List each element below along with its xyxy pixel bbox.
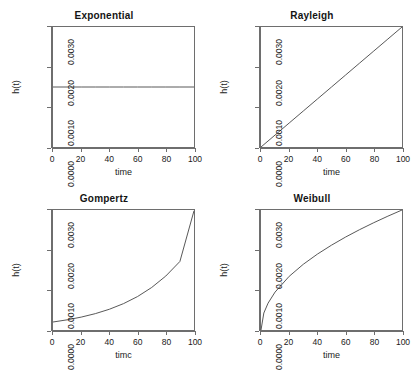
y-tick-mark (255, 250, 259, 251)
y-tick-label: 0.0020 (66, 250, 76, 276)
y-tick-label: 0.0020 (66, 67, 76, 93)
y-tick-label: 0.0030 (274, 209, 284, 235)
x-tick-label: 60 (341, 337, 350, 347)
y-tick-label: 0.0030 (66, 26, 76, 52)
y-axis-title: h(t) (218, 209, 230, 331)
chart-panel-weibull: Weibull020406080100time0.00000.00100.002… (208, 183, 416, 366)
panel-title: Rayleigh (208, 10, 416, 21)
y-tick-label-text: 0.0020 (66, 263, 76, 289)
y-tick-label-text: 0.0030 (274, 222, 284, 248)
y-axis-line (259, 26, 260, 148)
x-tick-mark (317, 331, 318, 335)
y-tick-label: 0.0030 (274, 26, 284, 52)
y-axis-title-text: h(t) (219, 80, 229, 94)
x-tick-mark (289, 331, 290, 335)
x-tick-label: 100 (188, 154, 202, 164)
y-tick-label-text: 0.0020 (274, 80, 284, 106)
x-tick-mark (260, 148, 261, 152)
y-tick-label: 0.0000 (274, 331, 284, 357)
y-tick-mark (255, 290, 259, 291)
x-tick-label: 60 (133, 337, 142, 347)
x-tick-label: 60 (341, 154, 350, 164)
x-tick-mark (346, 331, 347, 335)
y-tick-label-text: 0.0030 (66, 39, 76, 65)
x-tick-label: 80 (370, 154, 379, 164)
x-tick-label: 80 (162, 154, 171, 164)
y-tick-mark (47, 107, 51, 108)
y-tick-label: 0.0000 (66, 331, 76, 357)
y-tick-mark (47, 250, 51, 251)
y-axis-title: h(t) (218, 26, 230, 148)
x-tick-mark (81, 148, 82, 152)
x-tick-label: 20 (284, 154, 293, 164)
y-tick-mark (47, 26, 51, 27)
x-tick-mark (403, 331, 404, 335)
y-tick-label-text: 0.0010 (66, 303, 76, 329)
x-tick-label: 100 (396, 154, 410, 164)
x-tick-label: 0 (258, 154, 263, 164)
y-axis-title-text: h(t) (11, 80, 21, 94)
y-tick-mark (47, 290, 51, 291)
y-tick-mark (255, 107, 259, 108)
y-tick-label: 0.0010 (66, 290, 76, 316)
panel-title: Exponential (0, 10, 208, 21)
chart-panel-gompertz: Gompertz020406080100timc0.00000.00100.00… (0, 183, 208, 366)
y-tick-mark (47, 331, 51, 332)
y-tick-label: 0.0020 (274, 67, 284, 93)
y-tick-mark (255, 67, 259, 68)
x-tick-mark (52, 331, 53, 335)
x-tick-label: 0 (50, 337, 55, 347)
x-tick-label: 20 (76, 337, 85, 347)
y-axis-title-text: h(t) (219, 263, 229, 277)
x-tick-mark (81, 331, 82, 335)
y-tick-mark (255, 148, 259, 149)
y-tick-mark (255, 209, 259, 210)
y-axis-title-text: h(t) (11, 263, 21, 277)
y-tick-label: 0.0010 (274, 107, 284, 133)
x-tick-label: 80 (370, 337, 379, 347)
x-tick-mark (260, 331, 261, 335)
y-tick-label-text: 0.0000 (66, 344, 76, 370)
y-axis-title: h(t) (10, 26, 22, 148)
panel-title: Weibull (208, 193, 416, 204)
x-tick-mark (138, 148, 139, 152)
y-tick-mark (255, 331, 259, 332)
x-tick-label: 100 (188, 337, 202, 347)
y-tick-mark (47, 67, 51, 68)
y-tick-label: 0.0010 (66, 107, 76, 133)
y-tick-label-text: 0.0010 (274, 303, 284, 329)
x-tick-mark (289, 148, 290, 152)
y-tick-label: 0.0030 (66, 209, 76, 235)
y-axis-line (51, 209, 52, 331)
y-axis-line (259, 209, 260, 331)
x-tick-label: 40 (312, 154, 321, 164)
chart-panel-rayleigh: Rayleigh020406080100time0.00000.00100.00… (208, 0, 416, 183)
x-tick-mark (374, 331, 375, 335)
x-tick-mark (374, 148, 375, 152)
y-tick-label: 0.0000 (66, 148, 76, 174)
x-tick-mark (403, 148, 404, 152)
x-tick-label: 80 (162, 337, 171, 347)
x-tick-mark (346, 148, 347, 152)
y-tick-label-text: 0.0020 (66, 80, 76, 106)
y-tick-mark (47, 148, 51, 149)
x-tick-mark (195, 148, 196, 152)
x-tick-label: 0 (50, 154, 55, 164)
y-tick-label: 0.0010 (274, 290, 284, 316)
chart-panel-exponential: Exponential020406080100time0.00000.00100… (0, 0, 208, 183)
panel-title: Gompertz (0, 193, 208, 204)
x-tick-label: 20 (76, 154, 85, 164)
x-tick-label: 40 (104, 337, 113, 347)
x-tick-mark (109, 148, 110, 152)
x-tick-mark (166, 331, 167, 335)
x-tick-mark (138, 331, 139, 335)
y-tick-label: 0.0000 (274, 148, 284, 174)
y-axis-title: h(t) (10, 209, 22, 331)
x-tick-mark (166, 148, 167, 152)
y-tick-mark (47, 209, 51, 210)
x-tick-mark (109, 331, 110, 335)
x-tick-label: 100 (396, 337, 410, 347)
y-tick-label-text: 0.0030 (274, 39, 284, 65)
y-tick-label-text: 0.0000 (274, 344, 284, 370)
